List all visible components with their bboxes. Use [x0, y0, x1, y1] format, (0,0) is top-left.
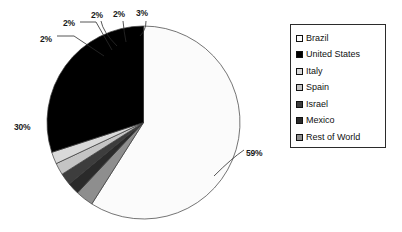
legend-item-italy: Italy [296, 63, 381, 80]
pie-value-label: 2% [63, 18, 75, 28]
legend-item-brazil: Brazil [296, 30, 381, 47]
legend-item-israel: Israel [296, 96, 381, 113]
legend-item-label: Mexico [306, 116, 335, 125]
legend-swatch-icon [296, 117, 303, 124]
legend-swatch-icon [296, 51, 303, 58]
pie-value-label: 2% [91, 10, 103, 20]
legend-item-label: Rest of World [306, 133, 360, 142]
legend-swatch-icon [296, 84, 303, 91]
pie-chart-figure: 2%2%2%2%3%30%59% BrazilUnited StatesItal… [0, 0, 402, 232]
legend-item-label: United States [306, 50, 360, 59]
legend-item-label: Italy [306, 67, 323, 76]
pie-slice-group [47, 26, 240, 219]
legend-item-rest-of-world: Rest of World [296, 129, 381, 146]
legend-item-label: Spain [306, 83, 329, 92]
legend-swatch-icon [296, 68, 303, 75]
legend-swatch-icon [296, 134, 303, 141]
pie-value-label: 59% [246, 148, 262, 158]
legend-item-united-states: United States [296, 47, 381, 64]
legend-item-label: Israel [306, 100, 328, 109]
chart-legend: BrazilUnited StatesItalySpainIsraelMexic… [290, 24, 386, 148]
legend-swatch-icon [296, 101, 303, 108]
legend-item-mexico: Mexico [296, 113, 381, 130]
pie-value-label: 2% [113, 9, 125, 19]
legend-swatch-icon [296, 35, 303, 42]
legend-item-spain: Spain [296, 80, 381, 97]
pie-value-label: 30% [14, 122, 30, 132]
pie-value-label: 3% [136, 8, 148, 18]
legend-item-label: Brazil [306, 34, 329, 43]
pie-value-label: 2% [40, 34, 52, 44]
